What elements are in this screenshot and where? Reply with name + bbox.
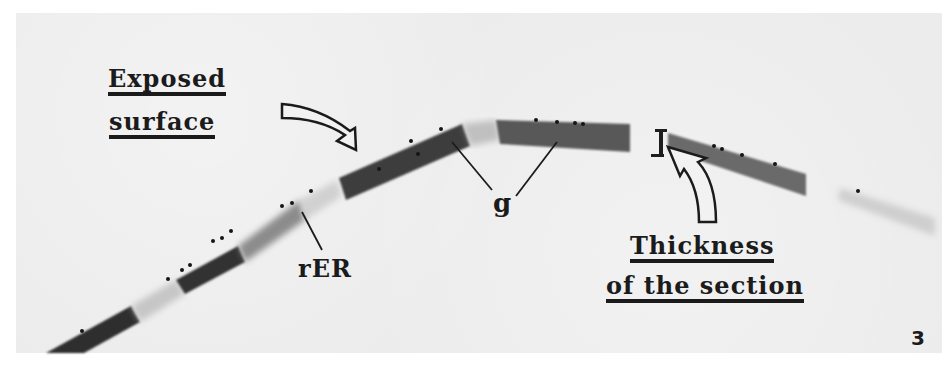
label-exposed-surface-line2: surface bbox=[109, 109, 215, 139]
label-golgi: g bbox=[493, 188, 512, 218]
label-thickness-line1: Thickness bbox=[630, 233, 774, 263]
micrograph-section-image bbox=[0, 0, 949, 367]
label-exposed-surface-line1: Exposed bbox=[108, 66, 226, 96]
label-rough-er: rER bbox=[298, 254, 352, 283]
label-thickness-line2: of the section bbox=[606, 273, 804, 303]
panel-number: 3 bbox=[911, 326, 925, 350]
